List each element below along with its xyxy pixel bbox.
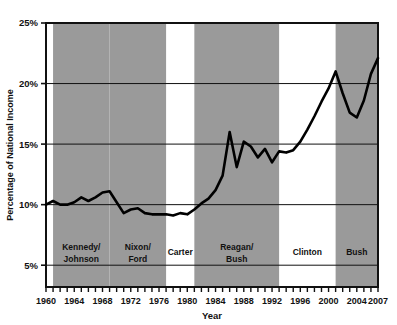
x-axis-tick-label: 1968: [92, 296, 112, 306]
x-axis-tick-label: 1976: [149, 296, 169, 306]
era-label-text: Bush: [226, 254, 247, 264]
era-label-text: Reagan/: [220, 242, 254, 252]
era-label-text: Kennedy/: [62, 242, 101, 252]
x-axis-tick-label: 1996: [290, 296, 310, 306]
era-label-text: Bush: [346, 247, 367, 257]
y-axis-tick-label: 15%: [19, 139, 39, 150]
y-axis-title: Percentage of National Income: [5, 89, 15, 221]
era-label-text: Clinton: [293, 247, 322, 257]
x-axis-tick-label: 1972: [121, 296, 141, 306]
x-axis-tick-label: 2004: [347, 296, 367, 306]
era-label-text: Johnson: [64, 254, 99, 264]
era-label-text: Carter: [168, 247, 194, 257]
national-income-line-chart: 5%10%15%20%25% 1960196419681972197619801…: [0, 0, 397, 325]
era-label-text: Nixon/: [125, 242, 152, 252]
x-axis-tick-label: 1992: [262, 296, 282, 306]
x-axis-tick-label: 2000: [319, 296, 339, 306]
x-axis-title: Year: [202, 310, 222, 321]
y-axis-tick-label: 25%: [19, 17, 39, 28]
y-axis-tick-label: 10%: [19, 199, 39, 210]
x-axis-tick-label: 1960: [36, 296, 56, 306]
x-axis-tick-label: 1980: [177, 296, 197, 306]
x-axis-tick-label: 1988: [234, 296, 254, 306]
x-axis-tick-label: 1964: [64, 296, 84, 306]
x-axis-tick-label: 2007: [368, 296, 388, 306]
era-label-text: Ford: [128, 254, 147, 264]
y-axis-tick-label: 20%: [19, 78, 39, 89]
x-axis-tick-label: 1984: [206, 296, 226, 306]
y-axis-tick-label: 5%: [24, 260, 38, 271]
chart-figure: 5%10%15%20%25% 1960196419681972197619801…: [0, 0, 397, 325]
